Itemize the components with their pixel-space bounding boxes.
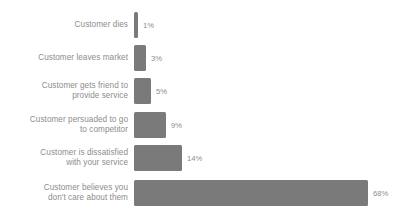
bar	[134, 145, 182, 171]
bar-value-label: 14%	[187, 154, 202, 163]
category-label: Customer is dissatisfied with your servi…	[0, 148, 128, 169]
bar	[134, 45, 146, 71]
bar	[134, 112, 166, 138]
chart-row: Customer leaves market 3%	[0, 45, 408, 71]
bar	[134, 12, 138, 38]
category-label: Customer persuaded to go to competitor	[0, 115, 128, 136]
category-label: Customer gets friend to provide service	[0, 81, 128, 102]
bar-value-label: 5%	[156, 87, 167, 96]
chart-row: Customer persuaded to go to competitor 9…	[0, 112, 408, 138]
bar-track: 14%	[134, 145, 202, 171]
bar-value-label: 68%	[373, 189, 388, 198]
bar-value-label: 3%	[151, 54, 162, 63]
bar-track: 3%	[134, 45, 162, 71]
chart-row: Customer gets friend to provide service …	[0, 78, 408, 104]
category-label: Customer dies	[0, 20, 128, 31]
bar-value-label: 1%	[143, 21, 154, 30]
chart-row: Customer is dissatisfied with your servi…	[0, 145, 408, 171]
bar	[134, 180, 368, 206]
bar	[134, 78, 151, 104]
bar-track: 9%	[134, 112, 182, 138]
category-label: Customer believes you don't care about t…	[0, 183, 128, 204]
bar-track: 1%	[134, 12, 154, 38]
bar-chart: Customer dies 1% Customer leaves market …	[0, 0, 408, 219]
bar-value-label: 9%	[171, 121, 182, 130]
chart-row: Customer believes you don't care about t…	[0, 180, 408, 206]
category-label: Customer leaves market	[0, 53, 128, 64]
bar-track: 5%	[134, 78, 167, 104]
chart-row: Customer dies 1%	[0, 12, 408, 38]
bar-track: 68%	[134, 180, 388, 206]
